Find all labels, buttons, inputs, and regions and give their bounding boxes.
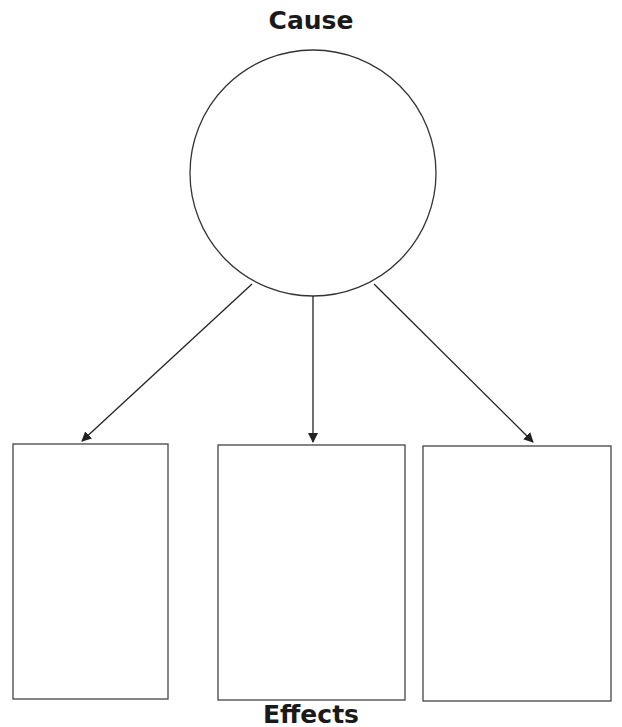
effect-box-3[interactable]	[423, 446, 611, 701]
arrow-left	[82, 284, 252, 441]
effects-title: Effects	[0, 700, 622, 727]
cause-circle[interactable]	[190, 50, 436, 296]
effect-box-2[interactable]	[218, 445, 405, 700]
arrow-right	[374, 284, 533, 442]
effect-box-1[interactable]	[13, 444, 168, 699]
